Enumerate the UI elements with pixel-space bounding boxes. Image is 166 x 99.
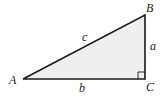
vertex-label-a: A bbox=[8, 73, 17, 87]
triangle-diagram: A B C a b c bbox=[0, 0, 166, 99]
vertex-label-b: B bbox=[146, 1, 154, 15]
right-triangle bbox=[23, 15, 145, 79]
side-label-a: a bbox=[150, 39, 156, 53]
side-label-b: b bbox=[79, 81, 85, 95]
vertex-label-c: C bbox=[146, 80, 155, 94]
side-label-c: c bbox=[82, 30, 88, 44]
